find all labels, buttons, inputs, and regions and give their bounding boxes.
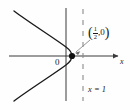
focus-close-paren: ) [105,25,110,40]
directrix-variable: x = 1 [88,84,106,94]
focus-point-marker [69,53,75,59]
x-axis-label: x [120,58,124,66]
origin-label: 0 [55,58,60,67]
fraction-denominator: 2 [93,33,98,41]
fraction-numerator: 1 [93,26,98,33]
parabola-figure: 0 x x = 1 (12,0) [0,0,130,110]
one-half-fraction: 12 [93,26,98,41]
focus-leader-line [76,40,90,52]
directrix-label: x = 1 [88,85,106,94]
focus-coordinate-label: (12,0) [88,26,109,41]
figure-canvas [0,0,130,110]
